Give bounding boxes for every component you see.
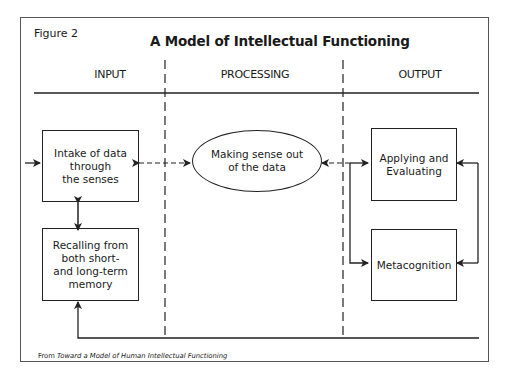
node-intake: Intake of data through the senses	[42, 130, 139, 202]
node-intake-line: through	[54, 160, 127, 173]
node-intake-line: the senses	[54, 173, 127, 186]
caption-source-title: Toward a Model of Human Intellectual Fun…	[57, 352, 227, 360]
node-metacognition: Metacognition	[371, 229, 457, 301]
node-processing: Making sense out of the data	[192, 130, 322, 192]
node-recall: Recalling from both short- and long-term…	[42, 228, 139, 301]
feedback-to-recall-arrow	[78, 302, 479, 338]
node-applying-line: Evaluating	[380, 165, 449, 178]
node-metacognition-label: Metacognition	[377, 259, 452, 272]
caption-prefix: From	[38, 352, 57, 360]
node-intake-line: Intake of data	[54, 147, 127, 160]
node-recall-line: both short-	[53, 252, 128, 265]
node-processing-line: Making sense out	[211, 148, 303, 161]
bus-to-metacognition-arrow	[350, 163, 368, 263]
node-recall-line: Recalling from	[53, 239, 128, 252]
node-recall-line: memory	[53, 278, 128, 291]
node-processing-line: of the data	[211, 161, 303, 174]
node-recall-line: and long-term	[53, 265, 128, 278]
node-applying-line: Applying and	[380, 152, 449, 165]
source-caption: From Toward a Model of Human Intellectua…	[38, 352, 227, 360]
node-applying: Applying and Evaluating	[371, 128, 457, 201]
